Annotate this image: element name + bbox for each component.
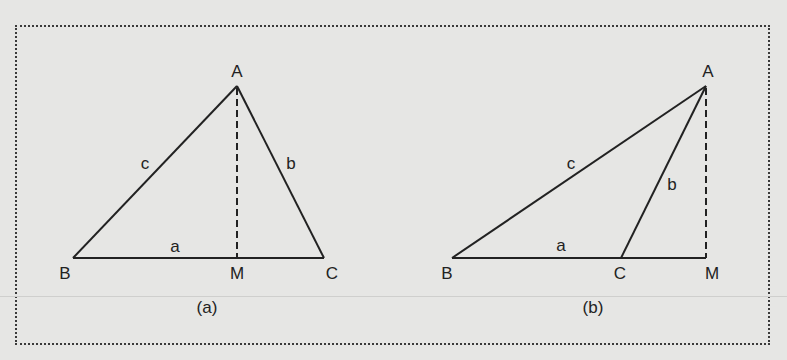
triangle-b bbox=[452, 86, 706, 258]
vertex-b-label-fig-b: B bbox=[441, 265, 452, 282]
vertex-m-label-fig-a: M bbox=[230, 265, 244, 282]
side-a-label-fig-a: a bbox=[170, 238, 179, 255]
vertex-c-label-fig-b: C bbox=[614, 265, 626, 282]
side-c-label-fig-a: c bbox=[141, 155, 150, 172]
side-b-label-fig-a: b bbox=[286, 155, 295, 172]
vertex-m-label-fig-b: M bbox=[705, 265, 719, 282]
vertex-a-label-fig-a: A bbox=[231, 63, 242, 80]
side-c-a bbox=[73, 86, 237, 258]
side-c-b bbox=[452, 86, 706, 258]
vertex-b-label-fig-a: B bbox=[59, 265, 70, 282]
side-b-label-fig-b: b bbox=[667, 176, 676, 193]
side-a-label-fig-b: a bbox=[556, 237, 565, 254]
vertex-a-label-fig-b: A bbox=[702, 63, 713, 80]
caption-b: (b) bbox=[583, 299, 604, 316]
side-c-label-fig-b: c bbox=[567, 155, 576, 172]
vertex-c-label-fig-a: C bbox=[326, 265, 338, 282]
caption-a: (a) bbox=[197, 299, 218, 316]
side-b-b bbox=[621, 86, 706, 258]
side-b-a bbox=[237, 86, 324, 258]
